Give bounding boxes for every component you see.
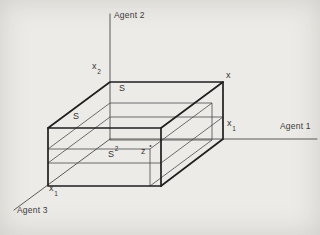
- s-top-face-label: S: [119, 84, 125, 93]
- axes-lines: [14, 14, 317, 210]
- x1-bottom-label: x1: [49, 184, 58, 195]
- outer-box-top-face: [48, 82, 223, 128]
- outer-box-edges: [48, 82, 223, 186]
- diagram-canvas: Agent 1 Agent 2 Agent 3 x x1 x2 x1 S S S…: [0, 0, 320, 235]
- agent3-axis-line: [14, 139, 110, 210]
- point-x-label: x: [226, 71, 231, 80]
- agent2-axis-label: Agent 2: [114, 11, 145, 20]
- x2-label: x2: [92, 62, 101, 73]
- point-z-label: z: [141, 147, 146, 156]
- s-squared-label: S2: [108, 148, 118, 159]
- agent3-axis-label: Agent 3: [17, 206, 48, 215]
- x1-right-label: x1: [227, 119, 236, 130]
- s-left-face-label: S: [73, 112, 79, 121]
- point-z-dot: [150, 145, 152, 147]
- box-diagram: [0, 0, 320, 235]
- agent1-axis-label: Agent 1: [280, 122, 311, 131]
